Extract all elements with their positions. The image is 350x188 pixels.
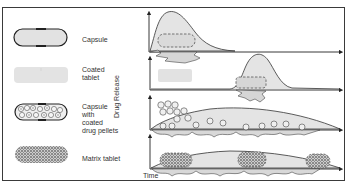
pellet-capsule-icon <box>15 104 67 120</box>
coated-tablet-icon <box>14 67 68 83</box>
capsule-icon <box>14 29 67 46</box>
release-curve-capsule <box>149 12 341 63</box>
matrix-tablet-icon <box>15 146 68 163</box>
release-curve-pellet-capsule <box>150 97 341 137</box>
release-curve-matrix-tablet <box>150 136 341 176</box>
diagram-graphics <box>0 0 350 188</box>
